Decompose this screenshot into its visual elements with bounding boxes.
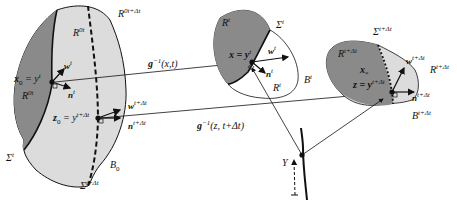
label-R-plus-tdt: Rt+Δt [430, 64, 449, 75]
label-R-plus-0t: R0t [73, 27, 85, 38]
label-w0t: wt [64, 60, 72, 71]
label-w0tdt: wt+Δt [128, 100, 147, 111]
label-x-eq-y-t: x = yt [229, 49, 251, 60]
label-sigma0tdt: Σt+Δt [80, 180, 99, 191]
label-sigma-t: Σt [276, 19, 284, 30]
label-g-inv-x-t: g−1(x,t) [148, 58, 178, 69]
label-nt: nt [266, 68, 273, 79]
label-wt: wt [268, 45, 276, 56]
label-Y: Y [282, 158, 288, 168]
label-x0: x0 = yt [14, 73, 41, 87]
label-R-minus-t: Rt [222, 17, 230, 28]
label-R-minus-0t: R0t [22, 90, 34, 101]
label-n-tdt: nt+Δt [412, 92, 430, 103]
label-R-plus-0t-dt: R0t+Δt [118, 8, 140, 19]
label-z0: z0 = yt+Δt [53, 112, 89, 126]
label-B0: B0 [110, 160, 120, 173]
label-R-minus-tdt: Rt+Δt [338, 48, 357, 59]
label-w-tdt: wt+Δt [406, 55, 425, 66]
label-g-inv-z-tdt: g−1(z, t+Δt) [197, 120, 244, 131]
label-n0tdt: nt+Δt [128, 120, 146, 131]
label-sigma0t: Σt [6, 152, 14, 163]
diagram-canvas: R0t+Δt R0t x0 = yt R0t wt nt z0 = yt+Δt … [0, 0, 457, 203]
label-B-tdt: Bt+Δt [412, 110, 431, 121]
label-R-plus-t: Rt [273, 82, 281, 93]
label-z-eq-y-tdt: z = yt+Δt [353, 79, 385, 90]
label-x-star: x* [360, 65, 369, 78]
label-sigma-tdt: Σt+Δt [373, 26, 392, 37]
label-Bt: Bt [304, 74, 312, 85]
label-n0t: nt [68, 89, 75, 100]
